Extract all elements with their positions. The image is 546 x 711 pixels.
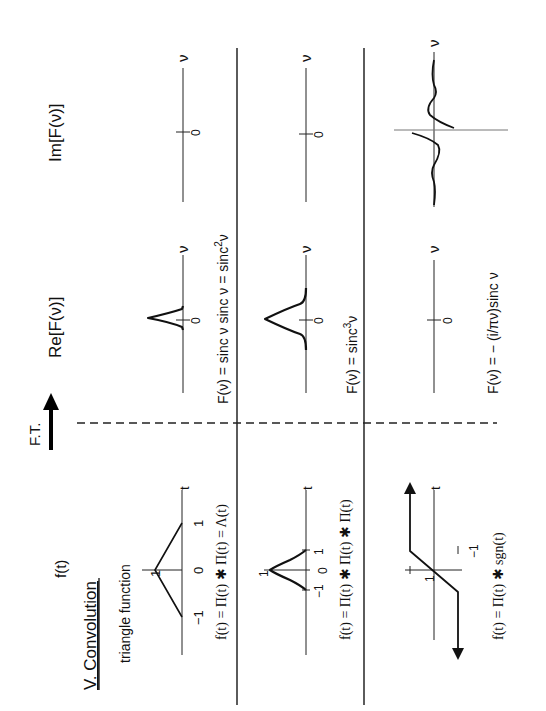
header-real: Re[F(ν)] bbox=[46, 297, 65, 358]
time-formula: f(t) = Π(t) ✱ Π(t) = Λ(t) bbox=[214, 504, 230, 640]
t-label: t bbox=[177, 486, 192, 490]
arrow-up-icon bbox=[404, 482, 416, 494]
re-formula: F(ν) = sinc3ν bbox=[342, 316, 360, 394]
row-triangle: triangle function t 1 −1 0 1 f(t) = Π(t)… bbox=[117, 55, 231, 664]
im-zero-label: 0 bbox=[312, 131, 326, 138]
arrow-down-icon bbox=[452, 648, 464, 660]
re-zero-label: 0 bbox=[441, 317, 455, 324]
im-curve-lower bbox=[412, 133, 439, 205]
re-zero-label: 0 bbox=[189, 317, 203, 324]
im-nu-label: ν bbox=[297, 55, 314, 63]
re-nu-label: ν bbox=[297, 246, 314, 254]
tick-pos: 1 bbox=[312, 548, 326, 555]
triangle-caption: triangle function bbox=[117, 564, 133, 663]
tick-neg: −1 bbox=[467, 544, 481, 558]
re-formula: F(ν) = sinc ν sinc ν = sinc2ν bbox=[213, 234, 231, 404]
im-curve-upper bbox=[428, 60, 454, 128]
t-label: t bbox=[428, 486, 443, 490]
section-title: V. Convolution bbox=[81, 581, 100, 690]
tick-pos: 1 bbox=[423, 575, 437, 582]
re-nu-label: ν bbox=[174, 246, 191, 254]
tick-pos: 1 bbox=[191, 520, 206, 527]
header-ft: F.T. bbox=[26, 423, 43, 446]
im-nu-label: ν bbox=[174, 55, 191, 63]
tick-peak: 1 bbox=[148, 570, 163, 577]
header-time: f(t) bbox=[52, 560, 69, 578]
row-rect-sgn: t 1 −1 f(t) = Π(t) ✱ sgn(t) 0 ν F(ν) = −… bbox=[394, 40, 508, 661]
tick-zero: 0 bbox=[316, 567, 330, 574]
tick-peak: 1 bbox=[257, 570, 271, 577]
re-sinc2-curve bbox=[148, 306, 183, 330]
re-sinc3-curve bbox=[265, 288, 306, 350]
tick-neg: −1 bbox=[312, 584, 326, 598]
re-zero-label: 0 bbox=[312, 317, 326, 324]
tick-neg: −1 bbox=[191, 610, 206, 625]
im-zero-label: 0 bbox=[189, 129, 203, 136]
time-formula: f(t) = Π(t) ✱ Π(t) ✱ Π(t) bbox=[338, 499, 354, 640]
time-formula: f(t) = Π(t) ✱ sgn(t) bbox=[491, 532, 507, 640]
im-nu-label: ν bbox=[425, 40, 442, 48]
tick-zero: 0 bbox=[191, 567, 206, 574]
header-imag: Im[F(ν)] bbox=[46, 103, 65, 162]
re-nu-label: ν bbox=[425, 246, 442, 254]
ft-arrow-icon bbox=[43, 393, 59, 450]
t-label: t bbox=[300, 486, 315, 490]
convolution-diagram: Im[F(ν)] Re[F(ν)] F.T. f(t) V. Convoluti… bbox=[0, 0, 546, 711]
row-triple-rect: t 1 −1 0 1 f(t) = Π(t) ✱ Π(t) ✱ Π(t) 0 ν… bbox=[257, 55, 360, 656]
re-formula: F(ν) = − (i/πν)sinc ν bbox=[485, 272, 501, 394]
